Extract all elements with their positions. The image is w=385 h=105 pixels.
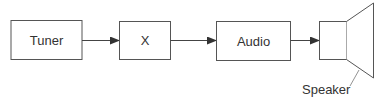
speaker-leader-line — [350, 70, 359, 86]
tuner-label: Tuner — [30, 33, 64, 48]
x-label: X — [141, 33, 150, 48]
audio-block: Audio — [217, 22, 291, 61]
tuner-block: Tuner — [11, 21, 82, 60]
x-block: X — [120, 22, 171, 60]
audio-label: Audio — [237, 34, 270, 49]
speaker-label: Speaker — [302, 82, 351, 97]
block-diagram: Tuner X Audio Speaker — [0, 0, 385, 105]
speaker-icon — [320, 3, 374, 78]
